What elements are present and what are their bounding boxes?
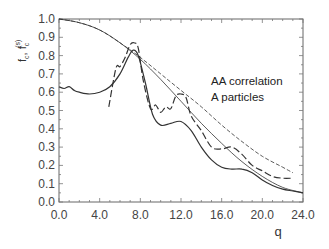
x-tick-label: 16.0 [210, 208, 234, 222]
y-tick-label: 0.6 [38, 85, 55, 99]
x-tick-label: 4.0 [91, 208, 108, 222]
x-tick-label: 8.0 [132, 208, 149, 222]
chart-plot: 0.0 4.0 8.0 12.0 16.0 20.0 24.0 0.0 0.1 … [0, 0, 329, 249]
y-tick-label: 0.9 [38, 30, 55, 44]
chart-annotation: AA correlation A particles [211, 75, 283, 103]
y-tick-label: 1.0 [38, 12, 55, 26]
curve-thin-solid [59, 19, 303, 193]
y-axis-title-sup: (s) [14, 40, 22, 48]
y-axis-title-sub2: c [23, 42, 30, 46]
svg-text:fc, fc(s): fc, fc(s) [14, 40, 30, 62]
x-tick-label: 20.0 [251, 208, 275, 222]
y-tick-label: 0.0 [38, 195, 55, 209]
annotation-line-2: A particles [211, 91, 264, 103]
x-tick-label: 24.0 [291, 208, 315, 222]
curve-solid [59, 50, 303, 193]
annotation-line-1: AA correlation [211, 75, 283, 87]
axis-ticks [59, 19, 303, 202]
plot-frame [59, 19, 303, 202]
y-axis-tick-labels: 0.0 0.1 0.2 0.3 0.4 0.5 0.6 0.7 0.8 0.9 … [38, 12, 55, 209]
y-tick-label: 0.2 [38, 158, 55, 172]
x-axis-title: q [274, 224, 281, 239]
y-axis-title: fc, fc(s) [14, 40, 30, 62]
x-axis-tick-labels: 0.0 4.0 8.0 12.0 16.0 20.0 24.0 [51, 208, 315, 222]
y-tick-label: 0.4 [38, 122, 55, 136]
y-tick-label: 0.3 [38, 140, 55, 154]
y-tick-label: 0.7 [38, 67, 55, 81]
x-tick-label: 12.0 [169, 208, 193, 222]
data-curves [59, 19, 303, 193]
x-tick-label: 0.0 [51, 208, 68, 222]
y-tick-label: 0.8 [38, 49, 55, 63]
y-tick-label: 0.1 [38, 177, 55, 191]
y-tick-label: 0.5 [38, 104, 55, 118]
curve-long-dashed [109, 42, 293, 178]
